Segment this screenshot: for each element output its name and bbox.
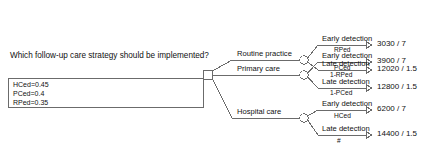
chance-node-primary — [300, 71, 308, 79]
branch-label-routine-practice: Routine practice — [237, 50, 292, 58]
branch-label-primary-care: Primary care — [237, 65, 280, 73]
probability-label-primary-early: PCed — [334, 65, 351, 72]
probability-label-hospital-early: HCed — [334, 113, 351, 120]
probability-label-hospital-late: # — [337, 138, 341, 145]
outcome-label-hospital-late: Late detection — [322, 125, 370, 133]
chance-node-routine — [300, 56, 308, 64]
payoff-hospital-early: 6200 / 7 — [377, 105, 406, 113]
root-question-label: Which follow-up care strategy should be … — [10, 52, 209, 61]
payoff-routine-early: 3030 / 7 — [377, 40, 406, 48]
payoff-routine-late: 12020 / 1.5 — [377, 65, 417, 73]
decision-node-root — [204, 71, 213, 80]
variable-rped: RPed=0.35 — [13, 99, 48, 106]
payoff-hospital-late: 14400 / 1.5 — [377, 130, 417, 138]
probability-label-primary-late: 1-PCed — [330, 90, 352, 97]
branch-label-hospital-care: Hospital care — [237, 108, 281, 116]
payoff-primary-late: 12800 / 1.5 — [377, 83, 417, 91]
outcome-label-routine-early: Early detection — [322, 35, 372, 43]
variable-definitions-box: HCed=0.45 PCed=0.4 RPed=0.35 — [8, 78, 204, 108]
variable-pced: PCed=0.4 — [13, 90, 44, 97]
outcome-label-primary-early: Early detection — [322, 52, 372, 60]
chance-node-hospital — [300, 114, 308, 122]
variable-hced: HCed=0.45 — [13, 81, 49, 88]
payoff-primary-early: 3900 / 7 — [377, 57, 406, 65]
outcome-label-hospital-early: Early detection — [322, 100, 372, 108]
decision-tree-diagram: Which follow-up care strategy should be … — [0, 0, 431, 154]
outcome-label-primary-late: Late detection — [322, 78, 370, 86]
